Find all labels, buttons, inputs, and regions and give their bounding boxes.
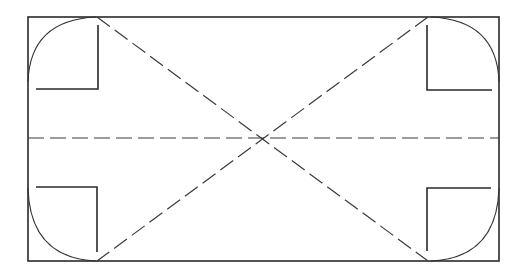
bracket-bottom-left — [36, 187, 97, 252]
diagram-canvas — [0, 0, 523, 274]
corner-arc-bottom-right — [431, 188, 499, 261]
bracket-top-right — [427, 25, 492, 90]
corner-arc-top-left — [28, 17, 96, 82]
bracket-top-left — [36, 25, 98, 89]
corner-arc-top-right — [431, 17, 499, 82]
dashed-diagonal-tr-bl — [97, 17, 428, 261]
corner-arc-bottom-left — [28, 188, 96, 261]
